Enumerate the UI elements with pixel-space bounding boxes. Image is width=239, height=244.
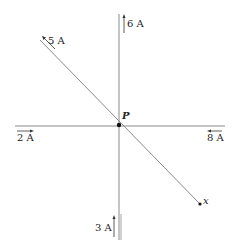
label-point-p: P [122, 111, 130, 121]
label-point-x: x [203, 196, 209, 206]
label-3a: 3 A [95, 223, 112, 233]
label-5a: 5 A [48, 36, 65, 46]
diagonal-wire [40, 40, 200, 204]
arrow-6a-icon [123, 14, 126, 33]
diagram-canvas: 5 A 6 A 2 A 8 A 3 A P x [0, 0, 239, 244]
point-p-marker [117, 123, 121, 127]
point-x-marker [198, 202, 201, 205]
arrow-3a-icon [113, 215, 116, 237]
label-2a: 2 A [17, 133, 34, 143]
label-8a: 8 A [207, 133, 224, 143]
label-6a: 6 A [127, 19, 144, 29]
wire-diagram-svg [0, 0, 239, 244]
